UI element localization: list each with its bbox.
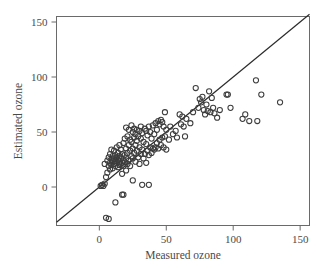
y-tick-label: 100 [31, 71, 48, 83]
y-tick-label: 150 [31, 16, 48, 28]
x-tick-label: 150 [292, 233, 309, 245]
x-tick-label: 0 [97, 233, 103, 245]
chart-background [0, 0, 325, 268]
estimated-vs-measured-ozone-chart: 050100150 050100150 Measured ozone Estim… [0, 0, 325, 268]
x-tick-label: 100 [225, 233, 242, 245]
y-axis-title: Estimated ozone [12, 83, 24, 159]
y-tick-label: 0 [42, 181, 48, 193]
x-axis-title: Measured ozone [145, 249, 221, 261]
scatter-plot-figure: 050100150 050100150 Measured ozone Estim… [0, 0, 325, 268]
y-tick-label: 50 [37, 126, 49, 138]
x-tick-label: 50 [161, 233, 173, 245]
